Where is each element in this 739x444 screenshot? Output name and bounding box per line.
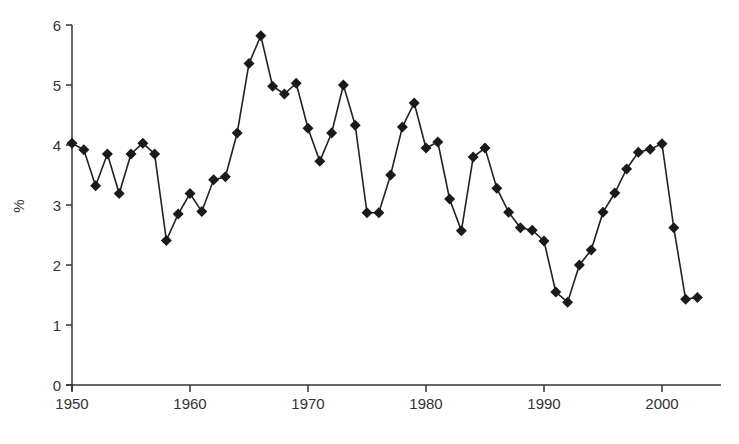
y-tick-label: 0	[53, 377, 61, 394]
diamond-marker	[491, 183, 502, 194]
line-chart: 0123456 195019601970198019902000 %	[0, 0, 739, 444]
diamond-marker	[668, 222, 679, 233]
diamond-marker	[90, 180, 101, 191]
diamond-marker	[598, 207, 609, 218]
diamond-marker	[303, 123, 314, 134]
diamond-marker	[255, 30, 266, 41]
x-tick-label: 2000	[645, 395, 678, 412]
diamond-marker	[456, 225, 467, 236]
diamond-marker	[220, 171, 231, 182]
y-tick-label: 3	[53, 197, 61, 214]
diamond-marker	[350, 120, 361, 131]
x-tick-label: 1990	[527, 395, 560, 412]
x-tick-label: 1970	[291, 395, 324, 412]
diamond-marker	[421, 143, 432, 154]
series-line	[72, 36, 697, 302]
diamond-marker	[102, 149, 113, 160]
diamond-marker	[633, 147, 644, 158]
diamond-marker	[409, 98, 420, 109]
diamond-marker	[208, 174, 219, 185]
diamond-marker	[185, 188, 196, 199]
y-tick-label: 4	[53, 137, 61, 154]
y-tick-label: 6	[53, 17, 61, 34]
diamond-marker	[657, 138, 668, 149]
diamond-marker	[114, 188, 125, 199]
diamond-marker	[314, 156, 325, 167]
x-tick-label: 1980	[409, 395, 442, 412]
y-tick-label: 2	[53, 257, 61, 274]
y-axis: 0123456	[53, 17, 72, 394]
x-axis: 195019601970198019902000	[55, 385, 721, 412]
diamond-marker	[267, 81, 278, 92]
y-tick-label: 5	[53, 77, 61, 94]
diamond-marker	[397, 122, 408, 133]
diamond-marker	[385, 170, 396, 181]
diamond-marker	[173, 209, 184, 220]
diamond-marker	[373, 207, 384, 218]
y-tick-label: 1	[53, 317, 61, 334]
diamond-marker	[609, 188, 620, 199]
diamond-marker	[67, 138, 78, 149]
diamond-marker	[680, 294, 691, 305]
diamond-marker	[645, 144, 656, 155]
data-series	[67, 30, 703, 307]
diamond-marker	[444, 194, 455, 205]
y-axis-label: %	[10, 199, 27, 212]
diamond-marker	[692, 292, 703, 303]
diamond-marker	[161, 235, 172, 246]
x-tick-label: 1960	[173, 395, 206, 412]
diamond-marker	[326, 128, 337, 139]
diamond-marker	[362, 207, 373, 218]
diamond-marker	[78, 144, 89, 155]
diamond-marker	[621, 164, 632, 175]
diamond-marker	[338, 80, 349, 91]
diamond-marker	[232, 128, 243, 139]
diamond-marker	[244, 58, 255, 69]
diamond-marker	[196, 206, 207, 217]
diamond-marker	[432, 137, 443, 148]
x-tick-label: 1950	[55, 395, 88, 412]
